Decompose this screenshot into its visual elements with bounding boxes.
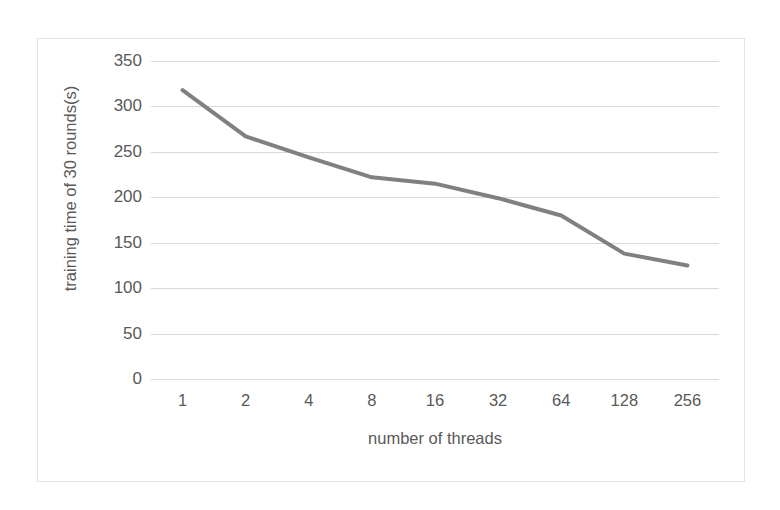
x-axis-tick-label: 1 (153, 391, 213, 410)
x-axis-tick-label: 8 (342, 391, 402, 410)
y-axis-tick-label: 100 (82, 278, 142, 298)
y-axis-tick-label: 200 (82, 187, 142, 207)
x-axis-tick-label: 256 (657, 391, 717, 410)
plot-area (151, 61, 719, 379)
y-axis-tick-labels: 050100150200250300350 (66, 61, 142, 379)
y-axis-tick-label: 300 (82, 96, 142, 116)
x-axis-tick-label: 2 (216, 391, 276, 410)
y-axis-tick-label: 150 (82, 233, 142, 253)
x-axis-tick-label: 16 (405, 391, 465, 410)
line-series-path (183, 90, 688, 265)
x-axis-tick-label: 128 (594, 391, 654, 410)
chart-figure: training time of 30 rounds(s) 0501001502… (37, 38, 745, 482)
y-axis-tick-label: 250 (82, 142, 142, 162)
y-axis-tick-label: 50 (82, 324, 142, 344)
line-series-svg (151, 61, 719, 379)
x-axis-title: number of threads (151, 429, 719, 448)
x-axis-tick-label: 32 (468, 391, 528, 410)
y-axis-tick-label: 0 (82, 369, 142, 389)
x-axis-tick-labels: 1248163264128256 (151, 391, 719, 415)
gridline (151, 379, 719, 380)
y-axis-tick-label: 350 (82, 51, 142, 71)
x-axis-tick-label: 4 (279, 391, 339, 410)
x-axis-tick-label: 64 (531, 391, 591, 410)
